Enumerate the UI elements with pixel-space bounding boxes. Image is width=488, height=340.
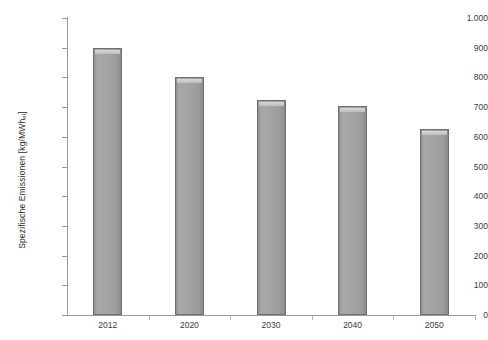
x-axis-tick [475,316,476,320]
x-axis-tick [312,316,313,320]
y-axis-tick [62,315,68,316]
x-axis-tick-label: 2040 [323,320,383,330]
y-axis-title: Spezifische Emissionen [kg/MWhel] [12,10,32,340]
x-axis-tick-label: 2012 [78,320,138,330]
x-axis-tick-label: 2020 [159,320,219,330]
plot-area [67,18,475,315]
x-axis-tick [149,316,150,320]
bar-chart-figure: Spezifische Emissionen [kg/MWhel] 010020… [0,0,488,340]
bar [175,77,204,315]
x-axis-tick-label: 2050 [404,320,464,330]
x-axis-line [67,315,476,316]
x-axis-tick [230,316,231,320]
y-axis-title-subscript: el [21,114,27,119]
bar [257,100,286,315]
bar [420,129,449,315]
x-axis-tick-label: 2030 [241,320,301,330]
y-axis-title-text: Spezifische Emissionen [kg/MWh [17,119,27,249]
x-axis-tick [393,316,394,320]
bar [338,106,367,315]
bar [93,48,122,315]
